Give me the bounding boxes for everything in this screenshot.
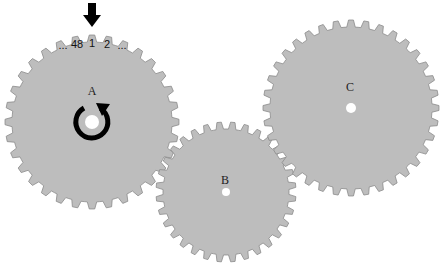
tooth-label-2: 2 — [104, 38, 110, 50]
axle-hole — [85, 115, 99, 129]
gear-label-a: A — [88, 84, 97, 98]
tooth-label-48: 48 — [71, 38, 83, 50]
gear-label-b: B — [221, 173, 229, 187]
axle-hole — [222, 188, 230, 196]
gear-b — [156, 122, 296, 262]
gear-diagram: ... 48 1 2 ... A B C — [0, 0, 442, 270]
tooth-label-ellipsis-right: ... — [117, 39, 126, 51]
tooth-label-ellipsis-left: ... — [58, 39, 67, 51]
axle-hole — [346, 103, 356, 113]
tooth-label-1: 1 — [89, 37, 95, 49]
gear-a — [5, 35, 179, 209]
gear-label-c: C — [346, 80, 354, 94]
gears-layer — [5, 20, 439, 262]
down-arrow-icon — [83, 3, 101, 27]
